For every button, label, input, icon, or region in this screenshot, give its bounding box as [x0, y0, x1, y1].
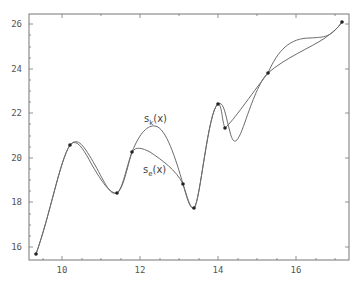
curve-label-s-e: se(x)	[143, 164, 166, 178]
spline-chart: 10 12 14 16 16 18 20 22 24 26 sk(x) se(x…	[0, 0, 359, 286]
x-axis-ticks	[43, 14, 335, 260]
x-tick-label: 16	[291, 265, 302, 275]
data-point	[115, 191, 119, 195]
y-axis-labels: 16 18 20 22 24 26	[11, 19, 22, 252]
y-tick-label: 18	[11, 197, 22, 207]
data-point	[216, 102, 220, 106]
x-tick-label: 10	[57, 265, 68, 275]
y-tick-label: 16	[11, 242, 22, 252]
data-point	[181, 182, 185, 186]
x-axis-labels: 10 12 14 16	[57, 265, 302, 275]
x-tick-label: 14	[213, 265, 224, 275]
y-tick-label: 20	[11, 153, 22, 163]
data-point	[34, 252, 38, 256]
data-point	[192, 206, 196, 210]
plot-frame	[29, 14, 349, 260]
data-point	[266, 71, 270, 75]
curve-s-k	[36, 22, 342, 254]
data-point	[68, 143, 72, 147]
y-tick-label: 22	[11, 108, 22, 118]
x-tick-label: 12	[135, 265, 146, 275]
y-axis-ticks	[29, 24, 349, 247]
data-points	[34, 20, 344, 256]
data-point	[340, 20, 344, 24]
y-tick-label: 24	[11, 64, 22, 74]
y-tick-label: 26	[11, 19, 22, 29]
data-point	[130, 150, 134, 154]
curve-s-e	[36, 22, 342, 254]
curve-label-s-k: sk(x)	[144, 113, 167, 127]
data-point	[223, 126, 227, 130]
